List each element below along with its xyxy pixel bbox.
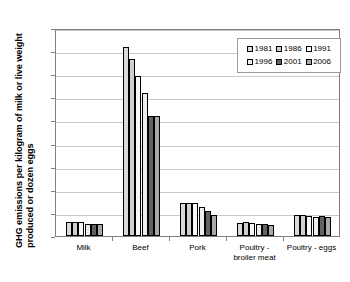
x-tick-label: Pork [169,243,226,253]
bar[interactable] [268,225,274,236]
legend-label-1996: 1996 [255,57,273,66]
x-tick-label: Poultry - eggs [283,243,340,253]
bar-group [113,30,170,236]
legend-label-1991: 1991 [313,44,331,53]
bar-group [170,30,227,236]
legend-item-1981[interactable]: 1981 [247,44,272,53]
x-tick-label-line1: Beef [112,243,169,253]
legend-label-1986: 1986 [284,44,302,53]
x-tick-label: Milk [55,243,112,253]
legend-item-2001[interactable]: 2001 [276,57,301,66]
bar[interactable] [154,116,160,236]
y-axis-title: GHG emissions per kilogram of milk or li… [0,0,32,250]
legend-swatch-2006 [306,59,312,65]
bar[interactable] [97,224,103,236]
legend-label-2001: 2001 [284,57,302,66]
legend-item-2006[interactable]: 2006 [306,57,331,66]
bar-group [56,30,113,236]
x-tick-label-line2: broiler meat [226,253,283,263]
x-tick-label-line1: Milk [55,243,112,253]
y-axis-title-line1: GHG emissions per kilogram of milk or li… [14,33,24,248]
y-tick-mark [51,237,55,238]
legend-row-2: 1996 2001 2006 [240,55,338,68]
legend-label-1981: 1981 [255,44,273,53]
legend: 1981 1986 1991 1996 2001 2006 [237,38,341,73]
x-tick-label: Poultry -broiler meat [226,243,283,263]
legend-swatch-1981 [247,46,253,52]
legend-swatch-2001 [276,59,282,65]
legend-swatch-1986 [276,46,282,52]
x-tick-label-line1: Pork [169,243,226,253]
legend-swatch-1991 [306,46,312,52]
x-tick-mark [226,237,227,241]
legend-swatch-1996 [247,59,253,65]
y-axis-title-line2: produced or dozen eggs [25,144,35,248]
bar[interactable] [211,215,217,236]
legend-item-1996[interactable]: 1996 [247,57,272,66]
x-tick-mark [112,237,113,241]
legend-item-1986[interactable]: 1986 [276,44,301,53]
x-tick-mark [283,237,284,241]
bar-chart: GHG emissions per kilogram of milk or li… [0,0,350,282]
x-tick-label: Beef [112,243,169,253]
x-tick-mark [169,237,170,241]
bar[interactable] [325,217,331,236]
legend-item-1991[interactable]: 1991 [306,44,331,53]
legend-row-1: 1981 1986 1991 [240,42,338,55]
x-tick-label-line1: Poultry - [226,243,283,253]
x-tick-label-line1: Poultry - eggs [283,243,340,253]
legend-label-2006: 2006 [313,57,331,66]
